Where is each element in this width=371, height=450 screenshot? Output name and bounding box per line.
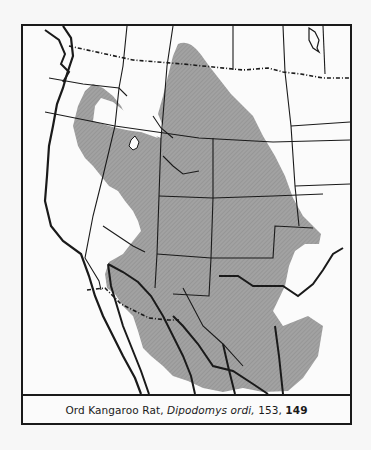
common-name: Ord Kangaroo Rat, xyxy=(65,404,163,416)
coastline xyxy=(45,26,141,394)
page-reference-2: 149 xyxy=(285,404,307,416)
scientific-name: Dipodomys ordi, xyxy=(167,404,255,416)
map-frame: Ord Kangaroo Rat, Dipodomys ordi, 153, 1… xyxy=(21,24,352,425)
puget-sound xyxy=(45,30,69,82)
species-range xyxy=(73,43,323,392)
range-map xyxy=(23,26,350,394)
map-caption: Ord Kangaroo Rat, Dipodomys ordi, 153, 1… xyxy=(23,394,350,423)
lake xyxy=(309,28,319,52)
page-reference-1: 153, xyxy=(258,404,282,416)
